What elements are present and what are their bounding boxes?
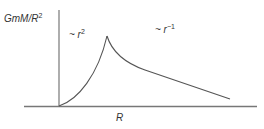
x-axis-label: R [116,112,123,123]
annotation-r-squared: ~ r2 [69,28,85,40]
y-axis-label: GmM/R2 [4,12,42,24]
curve-inside-r2 [59,36,107,106]
annotation-r-inverse: ~ r−1 [155,23,175,35]
curve-outside-r-inverse [107,36,230,99]
